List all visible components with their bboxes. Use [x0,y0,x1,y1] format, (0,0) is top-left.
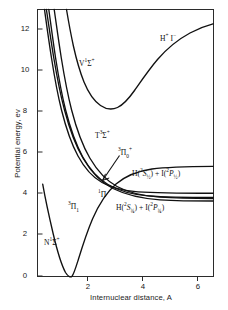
y-tick-12: 12 [16,24,34,33]
plot-canvas [0,0,228,310]
pi-singlet-symbol: Π [101,190,106,199]
t-parity: + [107,129,110,135]
y-axis-title: Potential energy, ev [13,96,22,192]
potential-energy-diagram: 12 10 8 6 4 2 0 2 4 6 Potential energy, … [0,0,228,310]
pi0-omega: 0 [126,153,129,159]
n-parity: + [57,236,60,242]
x-tick-6: 6 [188,282,208,291]
lower-i-close: ) [162,203,165,212]
pi0-parity: + [129,146,132,152]
upper-h-open: H( [132,169,140,178]
plot-frame [38,10,214,277]
label-1pi-state: 1Π [98,190,106,199]
label-3pi1-state: 3Π1 [68,202,79,211]
label-upper-asymptote: H(2S½) + I(2P½) [132,169,180,178]
x-tick-4: 4 [133,282,153,291]
lower-h-open: H( [116,203,124,212]
label-ion-pair: H+ I− [160,34,176,43]
label-n-state: N1Σ+ [44,238,60,247]
y-tick-2: 2 [16,229,34,238]
label-v-state: V1Σ+ [79,59,95,68]
v-parity: + [92,57,95,63]
x-axis-title: Internuclear distance, A [56,293,206,302]
pi1-omega: 1 [76,207,79,213]
x-tick-2: 2 [78,282,98,291]
label-lower-asymptote: H(2S¾) + I(2P¾) [116,203,164,212]
upper-i-close: ) [178,169,181,178]
lower-h-close: ) + I( [135,203,151,212]
y-tick-10: 10 [16,65,34,74]
label-t-state: T3Σ+ [95,131,110,140]
x-axis-ticks [88,277,198,282]
label-3pi0-state: 3Π0+ [118,148,132,157]
y-tick-0: 0 [16,271,34,280]
ion-pair-i-charge: − [173,32,176,38]
upper-h-close: ) + I( [151,169,167,178]
